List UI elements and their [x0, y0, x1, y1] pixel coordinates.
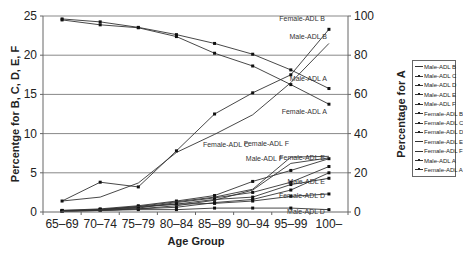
legend-label: Female-ADL D [424, 129, 463, 135]
data-point-marker [327, 192, 330, 195]
data-point-marker [251, 180, 254, 183]
data-point-marker [61, 200, 64, 203]
series-end-label: Female-ADL B [279, 15, 325, 22]
series-end-label: Female-ADL D [279, 192, 325, 199]
data-point-marker [289, 169, 292, 172]
y2-tick-label: 20 [354, 166, 368, 180]
x-tick-label: 65–69 [45, 217, 79, 231]
data-point-marker [99, 181, 102, 184]
legend-swatch-icon [415, 85, 423, 86]
legend-label: Male-ADL C [424, 73, 456, 79]
data-point-marker [289, 68, 292, 71]
legend-item: Female-ADL E [415, 137, 453, 146]
y-tick-label: 15 [24, 87, 38, 101]
legend-swatch-icon [415, 169, 423, 170]
data-point-marker [137, 185, 140, 188]
data-point-marker [289, 83, 292, 86]
legend-swatch-icon [415, 160, 423, 161]
y2-tick-label: 100 [354, 9, 374, 23]
legend-swatch-icon [415, 151, 423, 152]
data-point-marker [327, 165, 330, 168]
legend-swatch-icon [415, 123, 423, 124]
x-tick-label: 100– [316, 217, 343, 231]
legend: Male-ADL BMale-ADL CMale-ADL DMale-ADL E… [412, 60, 456, 177]
x-tick-label: 80–84 [160, 217, 194, 231]
data-point-marker [175, 149, 178, 152]
data-point-marker [251, 191, 254, 194]
series-end-label: Female-ADL A [282, 108, 328, 115]
series-end-label: Male-ADL F [246, 155, 283, 162]
data-point-marker [99, 20, 102, 23]
legend-swatch-icon [415, 66, 423, 67]
data-point-marker [327, 171, 330, 174]
legend-item: Male-ADL C [415, 71, 453, 80]
legend-swatch-icon [415, 141, 423, 142]
legend-label: Female-ADL A [424, 167, 463, 173]
y2-tick-label: 0 [354, 205, 361, 219]
data-point-marker [327, 177, 330, 180]
data-point-marker [251, 207, 254, 210]
y-tick-label: 20 [24, 48, 38, 62]
legend-item: Male-ADL B [415, 62, 453, 71]
y2-axis-title: Percentage for A [395, 70, 407, 158]
legend-item: Female-ADL F [415, 147, 453, 156]
data-point-marker [251, 64, 254, 67]
data-point-marker [251, 200, 254, 203]
data-point-marker [99, 23, 102, 26]
data-point-marker [213, 52, 216, 55]
data-point-marker [327, 208, 330, 211]
legend-swatch-icon [415, 76, 423, 77]
y2-tick-label: 80 [354, 48, 368, 62]
y2-tick-label: 60 [354, 87, 368, 101]
data-point-marker [175, 35, 178, 38]
data-point-marker [327, 87, 330, 90]
legend-item: Male-ADL A [415, 156, 453, 165]
data-point-marker [251, 91, 254, 94]
x-tick-label: 85–89 [198, 217, 232, 231]
legend-label: Male-ADL A [424, 158, 456, 164]
legend-item: Female-ADL C [415, 118, 453, 127]
legend-swatch-icon [415, 113, 423, 114]
y-axis-title: Percentge for B, C, D, E, F [9, 46, 21, 183]
data-point-marker [251, 53, 254, 56]
series-end-label: Female-ADL F [244, 140, 289, 147]
legend-swatch-icon [415, 104, 423, 105]
data-point-marker [327, 28, 330, 31]
legend-label: Male-ADL B [424, 64, 456, 70]
legend-label: Female-ADL E [424, 139, 463, 145]
data-point-marker [327, 103, 330, 106]
data-point-marker [137, 26, 140, 29]
series-end-label: Male-ADL E [287, 178, 325, 185]
legend-swatch-icon [415, 132, 423, 133]
x-axis-title: Age Group [168, 235, 225, 247]
y2-tick-label: 40 [354, 127, 368, 141]
data-point-marker [175, 208, 178, 211]
x-tick-label: 95–99 [274, 217, 308, 231]
data-point-marker [213, 202, 216, 205]
series-end-label: Male-ADL D [287, 208, 325, 215]
legend-item: Female-ADL A [415, 165, 453, 174]
data-point-marker [213, 207, 216, 210]
legend-label: Male-ADL F [424, 101, 456, 107]
legend-label: Male-ADL D [424, 82, 456, 88]
y-tick-label: 25 [24, 9, 38, 23]
series-end-label: Male-ADL A [290, 75, 327, 82]
legend-item: Male-ADL E [415, 90, 453, 99]
y-tick-label: 10 [24, 127, 38, 141]
data-point-marker [213, 113, 216, 116]
series-end-label: Female-ADL C [203, 141, 249, 148]
legend-label: Female-ADL C [424, 120, 463, 126]
legend-item: Female-ADL B [415, 109, 453, 118]
legend-label: Male-ADL E [424, 92, 456, 98]
legend-item: Male-ADL D [415, 81, 453, 90]
legend-label: Female-ADL F [424, 148, 463, 154]
legend-swatch-icon [415, 94, 423, 95]
legend-item: Female-ADL D [415, 128, 453, 137]
legend-label: Female-ADL B [424, 111, 463, 117]
legend-item: Male-ADL F [415, 100, 453, 109]
y-tick-label: 5 [30, 166, 37, 180]
data-point-marker [251, 196, 254, 199]
data-point-marker [213, 42, 216, 45]
x-tick-label: 75–79 [122, 217, 156, 231]
